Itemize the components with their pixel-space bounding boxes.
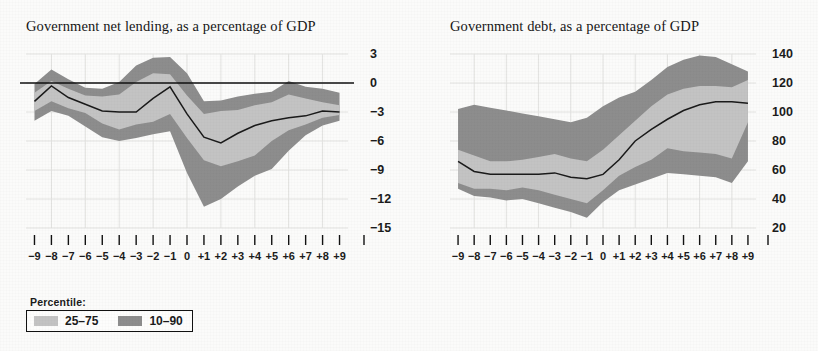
legend-entry-10-90: 10–90 [118, 314, 182, 328]
x-tick-label: −8 [45, 250, 58, 262]
x-tick-label: +1 [198, 250, 211, 262]
chart-svg-net-lending: 30−3−6−9−12−15−9−8−7−6−5−4−3−2−10+1+2+3+… [0, 40, 418, 290]
legend: Percentile: 25–75 10–90 [26, 296, 193, 332]
chart-title-net-lending: Government net lending, as a percentage … [0, 18, 444, 35]
legend-box: 25–75 10–90 [26, 310, 193, 332]
x-tick-label: −8 [468, 250, 481, 262]
chart-panel-debt: Government debt, as a percentage of GDP … [418, 0, 818, 351]
x-tick-label: +5 [677, 250, 690, 262]
x-tick-label: 0 [184, 250, 190, 262]
legend-entry-25-75: 25–75 [34, 314, 98, 328]
chart-title-debt: Government debt, as a percentage of GDP [418, 18, 818, 35]
x-tick-label: +2 [215, 250, 228, 262]
x-tick-label: +9 [742, 250, 755, 262]
legend-label-25-75: 25–75 [65, 314, 98, 328]
x-tick-label: +8 [316, 250, 329, 262]
x-tick-label: −7 [484, 250, 497, 262]
y-tick-label: 3 [370, 47, 377, 61]
chart-svg-debt: 14012010080604020−9−8−7−6−5−4−3−2−10+1+2… [418, 40, 818, 290]
x-tick-label: −3 [130, 250, 143, 262]
y-tick-label: −12 [370, 192, 391, 206]
legend-title: Percentile: [30, 296, 193, 308]
y-tick-label: −3 [370, 105, 384, 119]
x-tick-label: +6 [693, 250, 706, 262]
y-tick-label: 60 [772, 163, 786, 177]
x-tick-label: +3 [232, 250, 245, 262]
y-tick-label: 140 [772, 47, 793, 61]
x-tick-label: +2 [629, 250, 642, 262]
x-tick-label: −1 [164, 250, 177, 262]
y-tick-label: 20 [772, 221, 786, 235]
x-tick-label: −9 [28, 250, 41, 262]
x-tick-label: +7 [709, 250, 722, 262]
x-tick-label: +1 [613, 250, 626, 262]
x-tick-label: −4 [532, 250, 545, 262]
y-tick-label: 40 [772, 192, 786, 206]
x-tick-label: +4 [661, 250, 674, 262]
y-tick-label: 120 [772, 76, 793, 90]
x-tick-label: −4 [113, 250, 126, 262]
legend-label-10-90: 10–90 [149, 314, 182, 328]
y-tick-label: 0 [370, 76, 377, 90]
legend-swatch-25-75-icon [34, 316, 58, 326]
x-tick-label: +9 [333, 250, 346, 262]
y-tick-label: −9 [370, 163, 384, 177]
x-tick-label: −5 [516, 250, 529, 262]
x-tick-label: −9 [452, 250, 465, 262]
x-tick-label: +5 [265, 250, 278, 262]
x-tick-label: −2 [565, 250, 578, 262]
legend-swatch-10-90-icon [118, 316, 142, 326]
y-tick-label: 80 [772, 134, 786, 148]
x-tick-label: −1 [581, 250, 594, 262]
x-tick-label: +4 [249, 250, 262, 262]
x-tick-label: +6 [282, 250, 295, 262]
x-tick-label: −3 [548, 250, 561, 262]
x-tick-label: +8 [726, 250, 739, 262]
x-tick-label: −2 [147, 250, 160, 262]
x-tick-label: 0 [600, 250, 606, 262]
x-tick-label: +7 [299, 250, 312, 262]
x-tick-label: −6 [79, 250, 92, 262]
x-tick-label: −6 [500, 250, 513, 262]
y-tick-label: 100 [772, 105, 793, 119]
x-tick-label: −5 [96, 250, 109, 262]
y-tick-label: −15 [370, 221, 391, 235]
x-tick-label: −7 [62, 250, 75, 262]
y-tick-label: −6 [370, 134, 384, 148]
x-tick-label: +3 [645, 250, 658, 262]
